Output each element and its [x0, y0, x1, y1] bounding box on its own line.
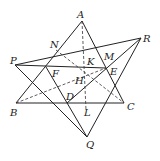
label-M: M	[103, 51, 115, 62]
label-D: D	[65, 91, 74, 102]
label-N: N	[49, 39, 60, 50]
segment-PR	[15, 38, 141, 65]
label-K: K	[86, 56, 95, 67]
geometry-figure: A R N M P K E F H D B L C Q	[0, 0, 160, 161]
label-E: E	[109, 66, 118, 77]
label-L: L	[83, 107, 91, 118]
label-P: P	[9, 55, 17, 66]
label-R: R	[142, 33, 151, 44]
segment-AL-dashed	[82, 21, 86, 110]
label-Q: Q	[86, 139, 94, 150]
label-C: C	[127, 101, 135, 112]
segment-RD	[67, 38, 141, 103]
label-H: H	[74, 75, 84, 86]
label-A: A	[76, 9, 84, 20]
label-B: B	[9, 107, 17, 118]
label-F: F	[51, 68, 60, 79]
